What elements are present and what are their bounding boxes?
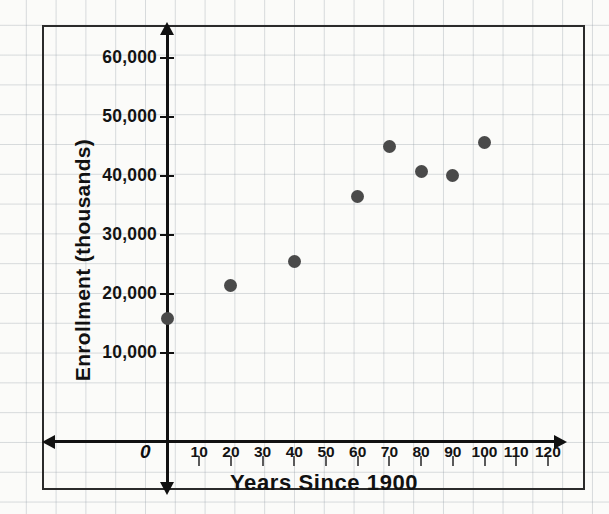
y-axis-tick-label: 10,000 (52, 342, 157, 363)
data-point (161, 312, 174, 325)
data-point (415, 165, 428, 178)
y-axis-tick (160, 234, 174, 236)
y-axis-tick-label: 60,000 (52, 47, 157, 68)
x-axis-tick-label: 120 (528, 443, 568, 461)
y-axis-tick (160, 352, 174, 354)
data-point (446, 169, 459, 182)
x-axis-arrow-left-icon (42, 435, 55, 449)
y-axis-line (166, 32, 169, 488)
data-point (383, 140, 396, 153)
y-axis-tick (160, 57, 174, 59)
origin-label: 0 (140, 441, 151, 463)
graph-paper-page: 10,00020,00030,00040,00050,00060,000 102… (0, 0, 609, 514)
y-axis-tick-label: 50,000 (52, 106, 157, 127)
y-axis-tick-label: 40,000 (52, 165, 157, 186)
y-axis-tick-label: 30,000 (52, 224, 157, 245)
y-axis-arrow-down-icon (160, 482, 174, 495)
y-axis-tick (160, 293, 174, 295)
data-point (224, 279, 237, 292)
y-axis-tick-label: 20,000 (52, 283, 157, 304)
data-point (478, 136, 491, 149)
y-axis-arrow-up-icon (160, 22, 174, 35)
data-point (351, 190, 364, 203)
y-axis-tick (160, 116, 174, 118)
y-axis-tick (160, 175, 174, 177)
scatter-plot-area: 10,00020,00030,00040,00050,00060,000 102… (0, 0, 609, 514)
data-point (288, 255, 301, 268)
x-axis-title: Years Since 1900 (230, 470, 418, 496)
y-axis-title: Enrollment (thousands) (71, 115, 95, 405)
